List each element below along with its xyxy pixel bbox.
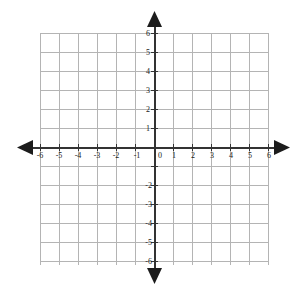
coordinate-plane-figure: -6 -5 -4 -3 -2 -1 0 1 2 3 4 5 6 6 5 4 3 …: [0, 0, 299, 291]
x-tick-label: -3: [94, 152, 101, 160]
x-tick-label: -1: [134, 152, 141, 160]
arrow-down-icon: [147, 268, 162, 284]
x-tick-label: -5: [56, 152, 63, 160]
y-tick-label: 1: [146, 125, 150, 133]
y-tick-label: 6: [146, 30, 150, 38]
x-tick-label: -2: [113, 152, 120, 160]
x-tick-label: 2: [191, 152, 195, 160]
y-tick-label: -5: [145, 239, 152, 247]
y-tick-label: -3: [145, 201, 152, 209]
y-tick-label: 5: [146, 49, 150, 57]
x-tick-label: 1: [172, 152, 176, 160]
y-tick-label: -4: [145, 220, 152, 228]
x-tick-label: 4: [229, 152, 233, 160]
y-tick-label: 3: [146, 87, 150, 95]
x-tick-label: 6: [267, 152, 271, 160]
origin-tick-label: 0: [158, 152, 162, 160]
coordinate-grid-svg: [0, 0, 299, 291]
x-tick-label: -4: [75, 152, 82, 160]
y-tick-label: -2: [145, 182, 152, 190]
arrow-up-icon: [147, 11, 162, 27]
y-tick-label: -6: [145, 258, 152, 266]
x-tick-label: -6: [37, 152, 44, 160]
arrow-left-icon: [17, 140, 33, 155]
y-tick-label: 2: [146, 106, 150, 114]
y-tick-label: 4: [146, 68, 150, 76]
arrow-right-icon: [274, 140, 290, 155]
x-tick-label: 3: [210, 152, 214, 160]
x-tick-label: 5: [248, 152, 252, 160]
